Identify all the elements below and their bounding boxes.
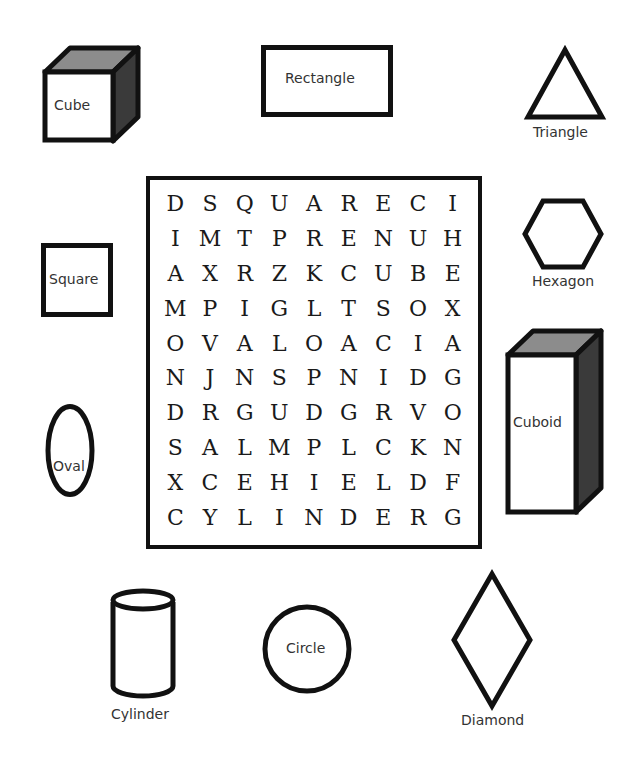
grid-letter[interactable]: C <box>331 256 366 291</box>
cube-icon <box>42 45 142 140</box>
grid-letter[interactable]: D <box>158 186 193 221</box>
grid-letter[interactable]: K <box>401 430 436 465</box>
grid-letter[interactable]: D <box>158 395 193 430</box>
grid-letter[interactable]: E <box>227 465 262 500</box>
grid-letter[interactable]: M <box>158 291 193 326</box>
grid-letter[interactable]: O <box>401 291 436 326</box>
grid-letter[interactable]: C <box>401 186 436 221</box>
grid-letter[interactable]: G <box>331 395 366 430</box>
grid-letter[interactable]: A <box>227 326 262 361</box>
cuboid-label: Cuboid <box>513 414 562 430</box>
grid-letter[interactable]: M <box>262 430 297 465</box>
grid-letter[interactable]: S <box>193 186 228 221</box>
grid-letter[interactable]: U <box>262 186 297 221</box>
grid-letter[interactable]: U <box>401 221 436 256</box>
grid-letter[interactable]: G <box>435 361 470 396</box>
grid-letter[interactable]: P <box>297 361 332 396</box>
grid-letter[interactable]: M <box>193 221 228 256</box>
grid-letter[interactable]: R <box>366 395 401 430</box>
grid-letter[interactable]: E <box>366 500 401 535</box>
grid-letter[interactable]: C <box>193 465 228 500</box>
grid-letter[interactable]: R <box>227 256 262 291</box>
grid-letter[interactable]: E <box>331 465 366 500</box>
grid-letter[interactable]: I <box>366 361 401 396</box>
grid-letter[interactable]: Y <box>193 500 228 535</box>
grid-letter[interactable]: D <box>331 500 366 535</box>
grid-letter[interactable]: P <box>297 430 332 465</box>
grid-letter[interactable]: V <box>401 395 436 430</box>
grid-letter[interactable]: N <box>158 361 193 396</box>
grid-letter[interactable]: Z <box>262 256 297 291</box>
grid-letter[interactable]: F <box>435 465 470 500</box>
grid-letter[interactable]: R <box>193 395 228 430</box>
grid-letter[interactable]: I <box>262 500 297 535</box>
grid-letter[interactable]: O <box>158 326 193 361</box>
grid-letter[interactable]: I <box>435 186 470 221</box>
grid-letter[interactable]: Q <box>227 186 262 221</box>
grid-letter[interactable]: R <box>401 500 436 535</box>
oval-label: Oval <box>53 458 85 474</box>
grid-letter[interactable]: A <box>435 326 470 361</box>
grid-letter[interactable]: C <box>158 500 193 535</box>
grid-letter[interactable]: A <box>158 256 193 291</box>
grid-letter[interactable]: L <box>297 291 332 326</box>
grid-letter[interactable]: L <box>227 430 262 465</box>
cylinder-icon <box>108 588 178 700</box>
cylinder-label: Cylinder <box>111 706 169 722</box>
grid-letter[interactable]: T <box>331 291 366 326</box>
grid-letter[interactable]: E <box>435 256 470 291</box>
triangle-icon <box>525 45 605 120</box>
grid-letter[interactable]: I <box>158 221 193 256</box>
grid-letter[interactable]: U <box>366 256 401 291</box>
word-search-grid: DSQUARECIIMTPRENUHAXRZKCUBEMPIGLTSOXOVAL… <box>146 176 482 549</box>
grid-letter[interactable]: I <box>401 326 436 361</box>
grid-letter[interactable]: J <box>193 361 228 396</box>
grid-letter[interactable]: G <box>262 291 297 326</box>
grid-letter[interactable]: T <box>227 221 262 256</box>
grid-letter[interactable]: O <box>297 326 332 361</box>
grid-letter[interactable]: N <box>435 430 470 465</box>
grid-letter[interactable]: X <box>193 256 228 291</box>
grid-letter[interactable]: N <box>297 500 332 535</box>
grid-letter[interactable]: H <box>435 221 470 256</box>
grid-letter[interactable]: L <box>331 430 366 465</box>
grid-letter[interactable]: A <box>193 430 228 465</box>
grid-letter[interactable]: P <box>262 221 297 256</box>
grid-letter[interactable]: P <box>193 291 228 326</box>
rectangle-label: Rectangle <box>285 70 355 86</box>
grid-letter[interactable]: G <box>435 500 470 535</box>
grid-letter[interactable]: R <box>331 186 366 221</box>
grid-letter[interactable]: O <box>435 395 470 430</box>
grid-letter[interactable]: S <box>158 430 193 465</box>
grid-letter[interactable]: C <box>366 326 401 361</box>
grid-letter[interactable]: D <box>401 465 436 500</box>
grid-letter[interactable]: L <box>262 326 297 361</box>
grid-letter[interactable]: D <box>297 395 332 430</box>
grid-letter[interactable]: L <box>227 500 262 535</box>
grid-letter[interactable]: N <box>366 221 401 256</box>
grid-letter[interactable]: A <box>331 326 366 361</box>
grid-letter[interactable]: R <box>297 221 332 256</box>
grid-letter[interactable]: S <box>366 291 401 326</box>
triangle-shape: Triangle <box>525 45 605 145</box>
grid-letter[interactable]: V <box>193 326 228 361</box>
grid-letter[interactable]: I <box>227 291 262 326</box>
grid-letter[interactable]: N <box>331 361 366 396</box>
grid-letter[interactable]: B <box>401 256 436 291</box>
grid-letter[interactable]: I <box>297 465 332 500</box>
grid-letter[interactable]: X <box>158 465 193 500</box>
grid-letter[interactable]: G <box>227 395 262 430</box>
grid-letter[interactable]: L <box>366 465 401 500</box>
grid-letter[interactable]: E <box>366 186 401 221</box>
grid-letter[interactable]: K <box>297 256 332 291</box>
grid-letter[interactable]: S <box>262 361 297 396</box>
grid-letter[interactable]: N <box>227 361 262 396</box>
grid-letter[interactable]: C <box>366 430 401 465</box>
grid-letter[interactable]: A <box>297 186 332 221</box>
grid-letter[interactable]: X <box>435 291 470 326</box>
grid-letter[interactable]: H <box>262 465 297 500</box>
grid-letter[interactable]: E <box>331 221 366 256</box>
grid-letter[interactable]: U <box>262 395 297 430</box>
grid-letter[interactable]: D <box>401 361 436 396</box>
diamond-label: Diamond <box>461 712 524 728</box>
